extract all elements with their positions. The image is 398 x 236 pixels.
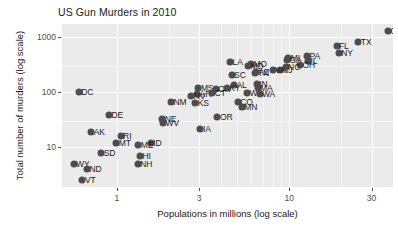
data-point-label: VA bbox=[275, 65, 286, 75]
data-point-label: MA bbox=[260, 83, 273, 93]
data-point-label: IA bbox=[203, 124, 211, 134]
gridline-minor-x bbox=[221, 24, 222, 187]
data-point-label: NM bbox=[174, 96, 187, 106]
data-point-label: SD bbox=[104, 147, 116, 157]
gridline-minor-x bbox=[281, 24, 282, 187]
data-point-label: ID bbox=[153, 137, 161, 147]
data-point-label: CA bbox=[390, 26, 393, 36]
gridline-major-x bbox=[289, 24, 290, 187]
data-point-label: MN bbox=[244, 102, 257, 112]
data-point-label: AK bbox=[94, 126, 105, 136]
data-point-label: DC bbox=[81, 87, 93, 97]
gridline-major-y bbox=[62, 37, 393, 38]
data-point-label: TX bbox=[361, 36, 372, 46]
data-point-label: OR bbox=[220, 111, 233, 121]
y-tick-label: 10 bbox=[47, 142, 56, 152]
data-point-label: KY bbox=[229, 83, 240, 93]
data-point-label: NY bbox=[341, 47, 353, 57]
data-point-label: ND bbox=[90, 164, 102, 174]
x-axis-title: Populations in millions (log scale) bbox=[62, 208, 393, 219]
data-point-label: OH bbox=[303, 59, 316, 69]
gridline-minor-x bbox=[273, 24, 274, 187]
x-tick-mark bbox=[289, 188, 290, 191]
data-point-label: CT bbox=[215, 87, 226, 97]
data-point-label: WV bbox=[166, 118, 180, 128]
gridline-minor-x bbox=[263, 24, 264, 187]
data-point-label: NC bbox=[288, 61, 300, 71]
data-point-label: SC bbox=[234, 69, 246, 79]
y-tick-label: 1000 bbox=[37, 32, 56, 42]
x-tick-label: 3 bbox=[197, 193, 202, 203]
data-point-label: NH bbox=[140, 158, 152, 168]
plot-panel: CATXFLNYPAMIILGAOHNJNCLAMOMDSCTNVAAZALIN… bbox=[62, 24, 393, 187]
y-tick-label: 100 bbox=[42, 87, 56, 97]
y-tick-mark bbox=[58, 147, 61, 148]
x-tick-label: 1 bbox=[115, 193, 120, 203]
x-tick-mark bbox=[199, 188, 200, 191]
chart-title: US Gun Murders in 2010 bbox=[58, 6, 176, 18]
gridline-major-x bbox=[372, 24, 373, 187]
y-axis-title: Total number of murders (log scale) bbox=[14, 21, 25, 191]
gridline-major-x bbox=[117, 24, 118, 187]
data-point-label: ME bbox=[141, 139, 154, 149]
x-tick-label: 30 bbox=[367, 193, 376, 203]
y-tick-mark bbox=[58, 92, 61, 93]
gridline-minor-x bbox=[169, 24, 170, 187]
data-point-label: DE bbox=[112, 110, 124, 120]
chart-figure: US Gun Murders in 2010 CATXFLNYPAMIILGAO… bbox=[0, 0, 398, 236]
data-point-label: VT bbox=[85, 175, 96, 185]
data-point-label: LA bbox=[233, 56, 243, 66]
data-point-label: AZ bbox=[258, 66, 269, 76]
x-tick-label: 10 bbox=[285, 193, 294, 203]
gridline-minor-y bbox=[62, 66, 393, 67]
data-point-label: KS bbox=[198, 98, 209, 108]
x-tick-mark bbox=[372, 188, 373, 191]
y-tick-mark bbox=[58, 37, 61, 38]
data-point-label: MT bbox=[119, 137, 131, 147]
x-tick-mark bbox=[117, 188, 118, 191]
